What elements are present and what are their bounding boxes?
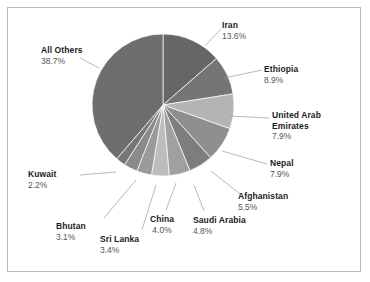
pie-label-sri-lanka-value: 3.4% [100, 245, 139, 256]
pie-label-united-arab-emirates-name-line2: Emirates [272, 121, 321, 132]
pie-label-iran-name: Iran [222, 20, 246, 31]
pie-label-afghanistan-value: 5.5% [238, 202, 288, 213]
pie-label-nepal-value: 7.9% [270, 169, 294, 180]
pie-label-bhutan: Bhutan 3.1% [56, 221, 86, 242]
pie-label-china-name: China [136, 214, 188, 225]
pie-leader-line-afghanistan [211, 171, 240, 194]
pie-label-saudi-arabia-value: 4.8% [193, 226, 246, 237]
pie-label-bhutan-name: Bhutan [56, 221, 86, 232]
pie-leader-line-ethiopia [224, 70, 262, 78]
pie-label-iran: Iran 13.6% [222, 20, 246, 41]
pie-label-nepal: Nepal 7.9% [270, 158, 294, 179]
pie-label-ethiopia-name: Ethiopia [264, 64, 298, 75]
pie-label-china: China 4.0% [136, 214, 188, 235]
pie-label-united-arab-emirates-name: United Arab [272, 110, 321, 121]
pie-label-kuwait-value: 2.2% [28, 180, 56, 191]
pie-label-kuwait: Kuwait 2.2% [28, 169, 56, 190]
pie-label-ethiopia-value: 8.9% [264, 75, 298, 86]
pie-label-bhutan-value: 3.1% [56, 232, 86, 243]
pie-label-united-arab-emirates: United Arab Emirates 7.9% [272, 110, 321, 142]
pie-label-ethiopia: Ethiopia 8.9% [264, 64, 298, 85]
pie-label-afghanistan-name: Afghanistan [238, 191, 288, 202]
pie-label-iran-value: 13.6% [222, 31, 246, 42]
pie-leader-line-china [166, 183, 176, 210]
pie-leader-line-iran [205, 29, 221, 46]
pie-leader-line-all-others [80, 58, 99, 68]
pie-label-united-arab-emirates-value: 7.9% [272, 131, 321, 142]
chart-frame: Iran 13.6% Ethiopia 8.9% United Arab Emi… [7, 7, 361, 272]
pie-label-nepal-name: Nepal [270, 158, 294, 169]
pie-label-afghanistan: Afghanistan 5.5% [238, 191, 288, 212]
pie-label-all-others: All Others 38.7% [41, 45, 83, 66]
pie-label-saudi-arabia-name: Saudi Arabia [193, 215, 246, 226]
pie-leader-line-nepal [222, 151, 267, 164]
pie-leader-line-saudi-arabia [194, 185, 204, 211]
pie-label-sri-lanka: Sri Lanka 3.4% [100, 234, 139, 255]
pie-leader-line-kuwait [80, 172, 116, 175]
pie-label-all-others-value: 38.7% [41, 56, 83, 67]
pie-label-china-value: 4.0% [136, 225, 188, 236]
pie-label-all-others-name: All Others [41, 45, 83, 56]
pie-leader-line-united-arab-emirates [230, 116, 269, 118]
pie-label-kuwait-name: Kuwait [28, 169, 56, 180]
pie-label-sri-lanka-name: Sri Lanka [100, 234, 139, 245]
pie-label-saudi-arabia: Saudi Arabia 4.8% [193, 215, 246, 236]
pie-leader-line-bhutan [104, 180, 136, 218]
